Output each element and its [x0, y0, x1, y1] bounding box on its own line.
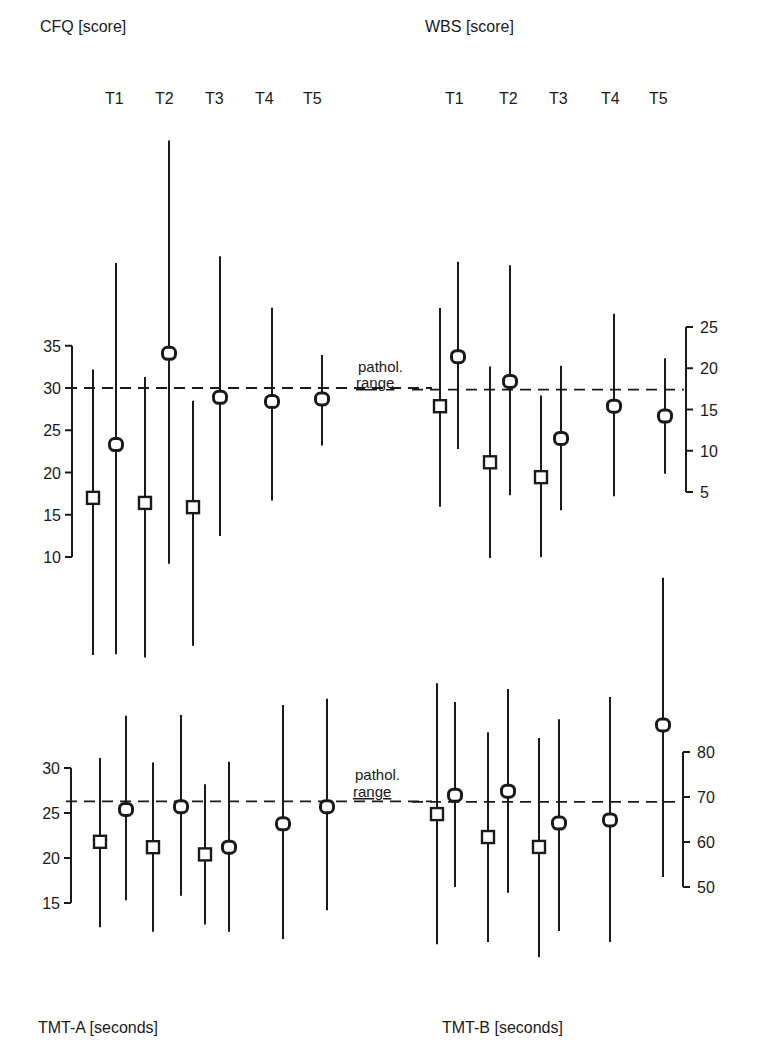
circle-marker-icon [277, 818, 290, 830]
tmta-panel: 30252015 [42, 699, 432, 939]
square-marker-icon [147, 841, 159, 853]
pathol-label: pathol. [358, 358, 403, 375]
wbs-square-point-t3 [535, 395, 547, 557]
cfq-tick-label: 10 [43, 549, 61, 566]
cfq-y-axis: 353025201510 [43, 338, 72, 566]
square-marker-icon [94, 836, 106, 848]
cfq-title: CFQ [score] [40, 18, 126, 35]
cfq-square-point-t3 [187, 401, 199, 646]
tmtb-circle-point-t3 [553, 719, 566, 931]
square-marker-icon [431, 808, 443, 820]
tmtb-square-point-t3 [533, 738, 545, 957]
circle-marker-icon [316, 393, 329, 405]
circle-marker-icon [223, 841, 236, 853]
wbs-title: WBS [score] [425, 18, 514, 35]
tmtb-circle-point-t4 [604, 697, 617, 942]
wbs-circle-point-t1 [452, 262, 465, 449]
tmtb-circle-point-t2 [502, 689, 515, 893]
cfq-t1-label: T1 [105, 90, 124, 107]
tmta-tick-label: 20 [42, 850, 60, 867]
range-label: range [353, 783, 391, 800]
circle-marker-icon [175, 801, 188, 813]
wbs-panel: 252015105 [412, 262, 718, 558]
wbs-timepoint-labels: T1 T2 T3 T4 T5 [445, 90, 668, 107]
square-marker-icon [482, 831, 494, 843]
wbs-circle-point-t2 [504, 265, 517, 495]
circle-marker-icon [449, 789, 462, 801]
cfq-panel: 353025201510 [43, 140, 432, 657]
tmta-square-point-t3 [199, 784, 211, 924]
cfq-circle-point-t4 [266, 308, 279, 501]
wbs-tick-label: 5 [700, 484, 709, 501]
tmtb-tick-label: 70 [697, 789, 715, 806]
circle-marker-icon [659, 410, 672, 422]
wbs-tick-label: 20 [700, 360, 718, 377]
wbs-circle-point-t3 [555, 366, 568, 510]
cfq-circle-point-t3 [214, 256, 227, 536]
circle-marker-icon [502, 785, 515, 797]
tmta-y-axis: 30252015 [42, 760, 71, 912]
tmta-title: TMT-A [seconds] [38, 1019, 158, 1036]
cfq-t2-label: T2 [155, 90, 174, 107]
circle-marker-icon [553, 817, 566, 829]
cfq-tick-label: 35 [43, 338, 61, 355]
tmtb-tick-label: 80 [697, 744, 715, 761]
cfq-timepoint-labels: T1 T2 T3 T4 T5 [105, 90, 322, 107]
circle-marker-icon [608, 400, 621, 412]
wbs-tick-label: 25 [700, 319, 718, 336]
tmtb-y-axis: 80706050 [683, 744, 715, 896]
wbs-t1-label: T1 [445, 90, 464, 107]
pathol-range-annotation-bottom: pathol. range [353, 766, 400, 800]
tmta-tick-label: 25 [42, 805, 60, 822]
tmta-square-point-t1 [94, 758, 106, 927]
tmta-circle-point-t2 [175, 715, 188, 896]
wbs-t2-label: T2 [499, 90, 518, 107]
cfq-t5-label: T5 [303, 90, 322, 107]
tmta-tick-label: 30 [42, 760, 60, 777]
cfq-square-point-t2 [139, 377, 151, 658]
wbs-tick-label: 15 [700, 402, 718, 419]
tmta-circle-point-t4 [277, 705, 290, 939]
cfq-tick-label: 20 [43, 465, 61, 482]
wbs-y-axis: 252015105 [686, 319, 718, 501]
square-marker-icon [139, 497, 151, 509]
wbs-circle-point-t4 [608, 314, 621, 496]
wbs-t4-label: T4 [601, 90, 620, 107]
tmtb-square-point-t2 [482, 732, 494, 942]
cfq-t3-label: T3 [205, 90, 224, 107]
wbs-square-point-t1 [434, 308, 446, 507]
circle-marker-icon [657, 719, 670, 731]
tmta-circle-point-t3 [223, 762, 236, 932]
tmta-square-point-t2 [147, 763, 159, 932]
chart-panels: 3530252015102520151053025201580706050 [42, 140, 718, 957]
square-marker-icon [199, 848, 211, 860]
tmtb-circle-point-t1 [449, 702, 462, 887]
cfq-tick-label: 30 [43, 380, 61, 397]
circle-marker-icon [321, 801, 334, 813]
square-marker-icon [533, 841, 545, 853]
square-marker-icon [87, 492, 99, 504]
cfq-tick-label: 25 [43, 422, 61, 439]
chart-figure: CFQ [score] WBS [score] TMT-A [seconds] … [0, 0, 768, 1053]
circle-marker-icon [555, 432, 568, 444]
tmtb-circle-point-t5 [657, 578, 670, 877]
cfq-circle-point-t5 [316, 355, 329, 445]
tmtb-square-point-t1 [431, 683, 443, 944]
circle-marker-icon [110, 439, 123, 451]
tmta-circle-point-t1 [120, 716, 133, 901]
circle-marker-icon [604, 814, 617, 826]
square-marker-icon [484, 456, 496, 468]
tmtb-tick-label: 50 [697, 879, 715, 896]
circle-marker-icon [163, 347, 176, 359]
tmtb-panel: 80706050 [412, 578, 715, 957]
circle-marker-icon [214, 391, 227, 403]
cfq-t4-label: T4 [255, 90, 274, 107]
wbs-tick-label: 10 [700, 443, 718, 460]
circle-marker-icon [504, 375, 517, 387]
tmtb-tick-label: 60 [697, 834, 715, 851]
tmta-circle-point-t5 [321, 699, 334, 911]
tmta-tick-label: 15 [42, 895, 60, 912]
circle-marker-icon [266, 396, 279, 408]
pathol-label: pathol. [355, 766, 400, 783]
wbs-circle-point-t5 [659, 358, 672, 474]
